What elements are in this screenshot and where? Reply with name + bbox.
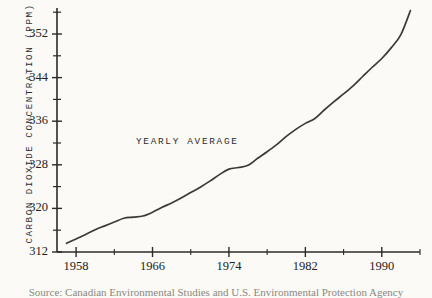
axis-lines: [57, 8, 420, 252]
y-axis-tick-label: 344: [14, 70, 48, 85]
y-axis-tick-label: 312: [14, 244, 48, 259]
x-axis-tick-label: 1982: [283, 259, 327, 274]
co2-trend-line: [67, 11, 411, 244]
x-axis-tick-label: 1974: [207, 259, 251, 274]
figure-source-caption: Source: Canadian Environmental Studies a…: [0, 286, 432, 298]
y-axis-tick-label: 320: [14, 200, 48, 215]
y-axis-tick-label: 352: [14, 26, 48, 41]
x-axis-tick-label: 1958: [54, 259, 98, 274]
y-axis-tick-label: 336: [14, 113, 48, 128]
y-axis-tick-label: 328: [14, 157, 48, 172]
x-axis-tick-label: 1990: [360, 259, 404, 274]
yearly-average-annotation: YEARLY AVERAGE: [136, 136, 239, 147]
x-axis-tick-label: 1966: [131, 259, 175, 274]
